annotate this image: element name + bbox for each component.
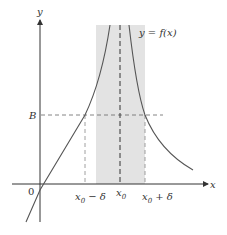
b-level-label: B [28,110,36,121]
tick-x0: x0 [116,187,127,201]
diagram-canvas: y x 0 B y = f(x) x0 − δ x0 x0 + δ [0,0,227,235]
tick-x0-plus-delta: x0 + δ [142,191,173,205]
delta-shaded-region [96,25,145,184]
y-axis-label: y [36,6,43,17]
tick-x0-minus-delta: x0 − δ [75,191,106,205]
x-axis-label: x [210,179,216,190]
function-label: y = f(x) [138,27,177,38]
origin-label: 0 [28,186,34,197]
